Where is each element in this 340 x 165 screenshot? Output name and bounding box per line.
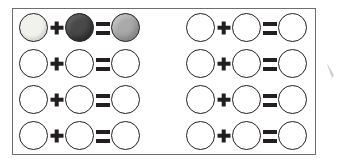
equals-icon [261, 85, 278, 114]
circle-sum[interactable] [278, 85, 307, 114]
circle-addend-1[interactable] [186, 49, 215, 78]
circle-addend-2[interactable] [232, 85, 261, 114]
equals-icon [261, 49, 278, 78]
circle-sum[interactable] [111, 121, 140, 150]
circle-addend-2[interactable] [65, 49, 94, 78]
equation-groups [13, 9, 315, 154]
plus-icon [215, 49, 232, 78]
equation-row [186, 48, 307, 79]
plus-icon [48, 49, 65, 78]
circle-sum[interactable] [111, 49, 140, 78]
circle-addend-1[interactable] [19, 85, 48, 114]
circle-addend-1[interactable] [186, 85, 215, 114]
equals-icon [94, 13, 111, 42]
plus-icon [48, 85, 65, 114]
equation-row [19, 48, 140, 79]
circle-sum[interactable] [111, 85, 140, 114]
circle-addend-2[interactable] [65, 121, 94, 150]
equation-row [19, 84, 140, 115]
circle-addend-1[interactable] [19, 49, 48, 78]
stray-ink-mark [326, 62, 336, 80]
circle-addend-1[interactable] [186, 121, 215, 150]
plus-icon [215, 121, 232, 150]
circle-sum[interactable] [278, 13, 307, 42]
circle-addend-1[interactable] [186, 13, 215, 42]
equals-icon [94, 49, 111, 78]
equation-row [186, 12, 307, 43]
equation-row [186, 120, 307, 151]
plus-icon [48, 13, 65, 42]
circle-addend-2[interactable] [232, 49, 261, 78]
circle-addend-1[interactable] [19, 121, 48, 150]
circle-addend-2[interactable] [65, 85, 94, 114]
plus-icon [48, 121, 65, 150]
equals-icon [261, 13, 278, 42]
circle-addend-1[interactable] [19, 13, 48, 42]
circle-sum[interactable] [278, 49, 307, 78]
plus-icon [215, 13, 232, 42]
equation-row [186, 84, 307, 115]
plus-icon [215, 85, 232, 114]
circle-sum[interactable] [278, 121, 307, 150]
equals-icon [261, 121, 278, 150]
equation-group-left [19, 12, 140, 151]
circle-addend-2[interactable] [232, 121, 261, 150]
equation-row [19, 120, 140, 151]
equals-icon [94, 85, 111, 114]
circle-addend-2[interactable] [65, 13, 94, 42]
worksheet-panel [12, 8, 316, 155]
circle-sum[interactable] [111, 13, 140, 42]
equals-icon [94, 121, 111, 150]
circle-addend-2[interactable] [232, 13, 261, 42]
equation-row [19, 12, 140, 43]
equation-group-right [186, 12, 307, 151]
